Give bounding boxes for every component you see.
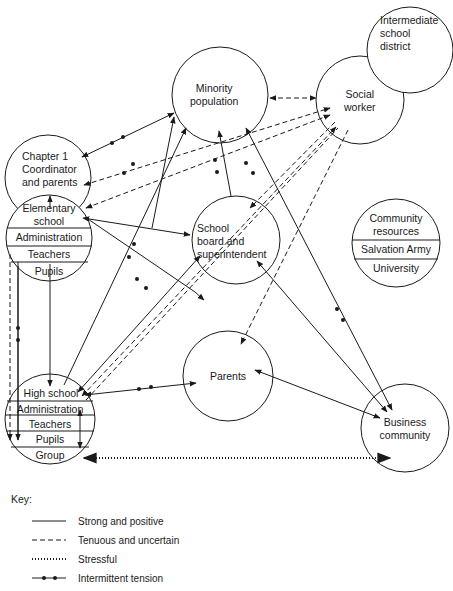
university-label: University bbox=[352, 262, 440, 275]
key-item-stressful: Stressful bbox=[78, 552, 117, 566]
intermediate-school-district-label: Intermediate school district bbox=[380, 14, 438, 53]
elementary-pupils: Pupils bbox=[7, 265, 91, 278]
key-item-tenuous: Tenuous and uncertain bbox=[78, 533, 179, 547]
elementary-administration: Administration bbox=[7, 231, 91, 244]
high-school-label: High school bbox=[15, 387, 87, 400]
elementary-school-label: Elementary school bbox=[20, 202, 78, 228]
chapter1-label: Chapter 1 Coordinator and parents bbox=[22, 150, 77, 189]
salvation-army-label: Salvation Army bbox=[352, 243, 440, 256]
key-title: Key: bbox=[11, 493, 32, 505]
social-worker-label: Social worker bbox=[344, 88, 376, 114]
high-teachers: Teachers bbox=[5, 418, 95, 431]
high-pupils: Pupils bbox=[5, 433, 95, 446]
elementary-teachers: Teachers bbox=[7, 248, 91, 261]
business-community-label: Business community bbox=[375, 416, 435, 442]
school-board-label: School board and superintendent bbox=[197, 222, 266, 261]
minority-population-label: Minority population bbox=[190, 82, 238, 108]
key-item-strong: Strong and positive bbox=[78, 514, 164, 528]
community-resources-label: Community resources bbox=[352, 212, 440, 238]
parents-label: Parents bbox=[198, 370, 258, 383]
key-item-intermittent: Intermittent tension bbox=[78, 571, 163, 585]
high-administration: Administration bbox=[5, 403, 95, 416]
high-group: Group bbox=[5, 449, 95, 462]
